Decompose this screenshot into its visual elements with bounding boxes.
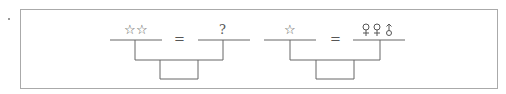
unknown-question-mark: ? [219, 22, 226, 37]
balance-diagram [0, 0, 506, 94]
gender-symbols-icon [363, 24, 392, 36]
two-stars-label: ☆☆ [124, 22, 148, 37]
equals-sign: = [174, 31, 185, 46]
one-star-label: ☆ [284, 22, 296, 37]
equals-sign: = [330, 31, 341, 46]
